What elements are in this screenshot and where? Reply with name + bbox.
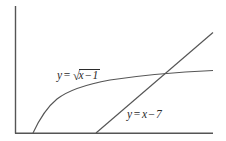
line-label-minus-sign: − xyxy=(147,108,156,120)
sqrt-curve-label: y=√x−1 xyxy=(57,69,100,82)
line-label-equals: = xyxy=(132,108,142,120)
plot-canvas xyxy=(0,0,226,141)
linear-line-label: y=x−7 xyxy=(127,109,162,121)
radicand: x−1 xyxy=(79,69,100,82)
line-label-number: 7 xyxy=(156,108,162,120)
radicand-number: 1 xyxy=(93,69,99,81)
radicand-minus-sign: − xyxy=(84,69,93,81)
math-graph-figure: y=√x−1 y=x−7 xyxy=(0,0,226,141)
radical-expression: √x−1 xyxy=(72,69,100,82)
sqrt-label-equals: = xyxy=(62,69,72,81)
